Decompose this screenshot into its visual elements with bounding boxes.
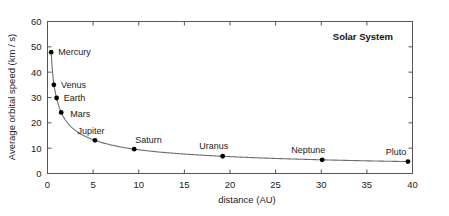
y-tick-label-60: 60 bbox=[31, 16, 42, 27]
data-point-mars bbox=[59, 110, 64, 115]
point-label-saturn: Saturn bbox=[135, 135, 162, 145]
x-tick-label-35: 35 bbox=[362, 179, 373, 190]
point-label-uranus: Uranus bbox=[199, 141, 229, 151]
x-axis-title: distance (AU) bbox=[218, 194, 276, 205]
x-tick-label-30: 30 bbox=[316, 179, 327, 190]
data-point-pluto bbox=[406, 159, 411, 164]
point-label-mars: Mars bbox=[70, 109, 90, 119]
x-tick-label-15: 15 bbox=[179, 179, 190, 190]
x-tick-label-10: 10 bbox=[133, 179, 144, 190]
y-tick-label-40: 40 bbox=[31, 67, 42, 78]
x-tick-label-5: 5 bbox=[90, 179, 95, 190]
solar-system-chart-figure: 0510152025303540 0102030405060 MercuryVe… bbox=[0, 0, 449, 216]
x-tick-label-25: 25 bbox=[270, 179, 281, 190]
y-tick-label-30: 30 bbox=[31, 92, 42, 103]
y-tick-label-20: 20 bbox=[31, 117, 42, 128]
y-tick-label-0: 0 bbox=[36, 168, 41, 179]
orbital-speed-scatter-plot: 0510152025303540 0102030405060 MercuryVe… bbox=[0, 0, 449, 216]
x-tick-label-0: 0 bbox=[45, 179, 50, 190]
data-point-earth bbox=[54, 96, 59, 101]
x-tick-label-40: 40 bbox=[407, 179, 418, 190]
point-label-neptune: Neptune bbox=[291, 145, 325, 155]
y-tick-label-50: 50 bbox=[31, 41, 42, 52]
x-tick-label-20: 20 bbox=[225, 179, 236, 190]
data-point-saturn bbox=[132, 147, 137, 152]
plot-title: Solar System bbox=[333, 31, 393, 42]
point-label-venus: Venus bbox=[61, 80, 87, 90]
data-point-mercury bbox=[49, 50, 54, 55]
point-label-mercury: Mercury bbox=[58, 47, 91, 57]
point-label-jupiter: Jupiter bbox=[77, 126, 104, 136]
point-label-earth: Earth bbox=[64, 93, 86, 103]
data-point-neptune bbox=[320, 157, 325, 162]
y-axis-title: Average orbital speed (km / s) bbox=[6, 34, 17, 161]
data-point-venus bbox=[51, 82, 56, 87]
data-point-jupiter bbox=[93, 138, 98, 143]
point-label-pluto: Pluto bbox=[386, 147, 407, 157]
y-tick-label-10: 10 bbox=[31, 143, 42, 154]
data-point-uranus bbox=[220, 154, 225, 159]
